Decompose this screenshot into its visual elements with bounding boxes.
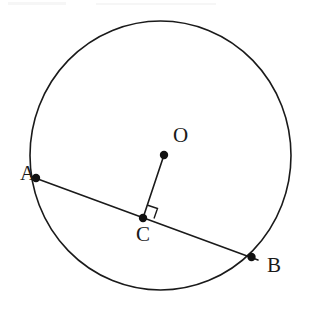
point-b-label: B [267, 255, 281, 276]
point-o-dot [160, 151, 168, 159]
point-c-label: C [136, 224, 150, 245]
right-angle-marker-icon [147, 205, 158, 219]
point-o-label: O [173, 125, 188, 146]
geometry-canvas [0, 0, 312, 309]
point-b-dot [247, 253, 255, 261]
geometry-diagram: A B C O [0, 0, 312, 309]
segment-oc-line [143, 155, 164, 218]
point-a-label: A [20, 163, 35, 184]
point-c-dot [139, 214, 147, 222]
